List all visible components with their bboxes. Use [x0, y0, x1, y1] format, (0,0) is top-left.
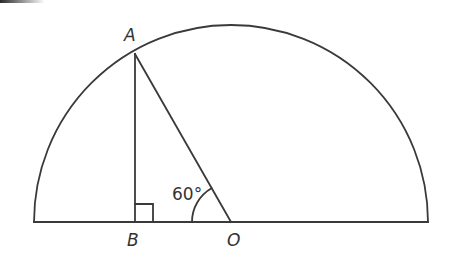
angle-label: 60° — [172, 184, 202, 204]
point-label-B: B — [127, 230, 139, 250]
point-label-O: O — [227, 230, 240, 250]
right-angle-marker — [135, 204, 153, 222]
semicircle-diagram: A B O 60° — [0, 0, 456, 255]
point-label-A: A — [123, 25, 136, 45]
semicircle-arc — [34, 25, 428, 222]
